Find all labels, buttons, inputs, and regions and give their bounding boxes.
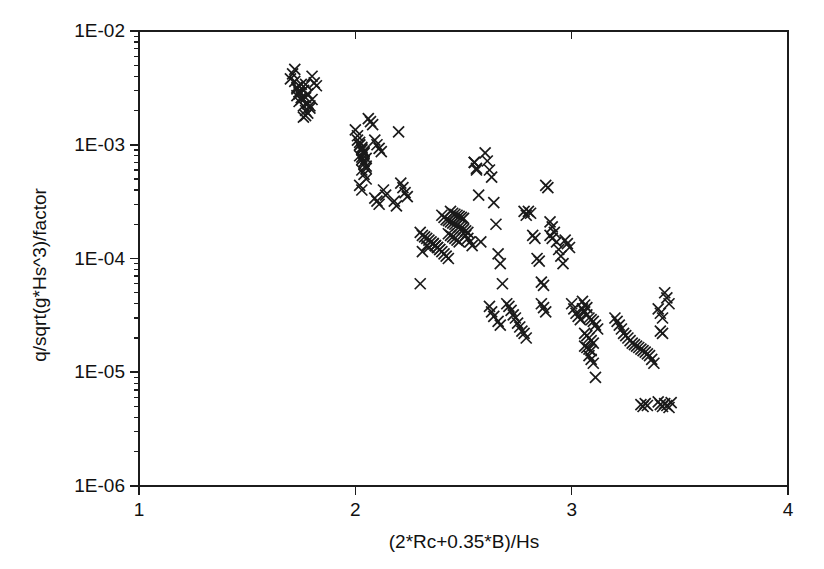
y-tick-label: 1E-02 <box>74 20 125 41</box>
data-point-marker <box>415 278 426 289</box>
data-point-marker <box>393 126 404 137</box>
data-point-marker <box>356 185 367 196</box>
data-point-marker <box>473 190 484 201</box>
x-axis-label: (2*Rc+0.35*B)/Hs <box>389 531 539 552</box>
y-tick-label: 1E-06 <box>74 475 125 496</box>
data-point-marker <box>482 155 493 166</box>
x-tick-label-group: 1234 <box>134 499 794 520</box>
tick-mark-group <box>130 31 789 495</box>
data-marker-group <box>285 64 677 413</box>
data-point-marker <box>521 333 532 344</box>
y-tick-label: 1E-03 <box>74 134 125 155</box>
data-point-marker <box>367 119 378 130</box>
data-point-marker <box>493 316 504 327</box>
data-point-marker <box>374 199 385 210</box>
data-point-marker <box>471 164 482 175</box>
data-point-marker <box>646 354 657 365</box>
y-tick-label-group: 1E-061E-051E-041E-031E-02 <box>74 20 125 496</box>
data-point-marker <box>495 258 506 269</box>
data-point-marker <box>590 320 601 331</box>
data-point-marker <box>586 354 597 365</box>
axis-frame <box>139 31 788 486</box>
plot-canvas: 1E-061E-051E-041E-031E-02 1234 (2*Rc+0.3… <box>0 0 824 569</box>
data-point-marker <box>538 302 549 313</box>
y-axis-label: q/sqrt(g*Hs^3)/factor <box>29 188 50 362</box>
data-point-marker <box>577 296 588 307</box>
data-point-marker <box>493 248 504 259</box>
data-point-marker <box>490 219 501 230</box>
x-tick-label: 3 <box>566 499 577 520</box>
data-point-marker <box>376 146 387 157</box>
data-point-marker <box>371 139 382 150</box>
data-point-marker <box>590 372 601 383</box>
y-tick-label: 1E-05 <box>74 361 125 382</box>
x-tick-label: 4 <box>783 499 794 520</box>
data-point-marker <box>538 280 549 291</box>
data-point-marker <box>417 246 428 257</box>
x-tick-label: 2 <box>350 499 361 520</box>
data-point-marker <box>497 278 508 289</box>
data-point-marker <box>521 210 532 221</box>
data-point-marker <box>488 197 499 208</box>
data-point-marker <box>529 233 540 244</box>
data-point-marker <box>480 147 491 158</box>
data-point-marker <box>464 236 475 247</box>
data-point-marker <box>558 258 569 269</box>
data-point-marker <box>289 64 300 75</box>
scatter-plot-figure: 1E-061E-051E-041E-031E-02 1234 (2*Rc+0.3… <box>0 0 824 569</box>
y-tick-label: 1E-04 <box>74 248 125 269</box>
data-point-marker <box>495 320 506 331</box>
x-tick-label: 1 <box>134 499 145 520</box>
